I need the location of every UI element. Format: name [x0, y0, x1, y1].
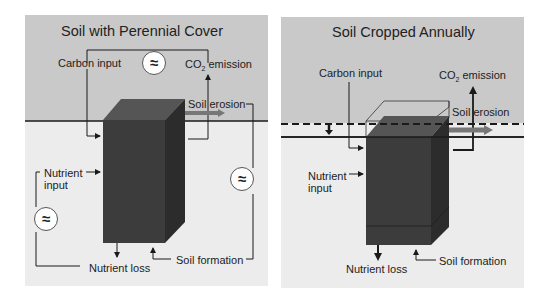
label-soil-erosion: Soil erosion [188, 98, 245, 110]
soil-column-front [103, 120, 165, 243]
label-nutrient-input: Nutrientinput [44, 167, 83, 191]
label-nutrient-loss: Nutrient loss [346, 263, 407, 275]
panel-cropped [281, 17, 524, 288]
label-nutrient-input: Nutrientinput [308, 170, 347, 194]
soil-column-front [366, 137, 431, 245]
label-nutrient-loss: Nutrient loss [89, 262, 150, 274]
label-co2-emission: CO2 emission [439, 69, 506, 86]
panel-title-cropped: Soil Cropped Annually [332, 24, 475, 40]
label-soil-formation: Soil formation [176, 254, 243, 266]
approx-equal-icon-nutrient: ≈ [34, 207, 58, 231]
label-carbon-input: Carbon input [58, 57, 121, 69]
approx-equal-icon-soil: ≈ [230, 167, 254, 191]
label-carbon-input: Carbon input [319, 67, 382, 79]
label-soil-erosion: Soil erosion [452, 106, 509, 118]
label-co2-emission: CO2 emission [185, 58, 252, 75]
soil-column-side [431, 116, 449, 245]
approx-equal-icon-carbon: ≈ [142, 51, 166, 75]
label-soil-formation: Soil formation [439, 255, 506, 267]
soil-carbon-diagram [0, 0, 549, 296]
panel-title-perennial: Soil with Perennial Cover [61, 23, 223, 39]
soil-column-side [165, 99, 185, 243]
